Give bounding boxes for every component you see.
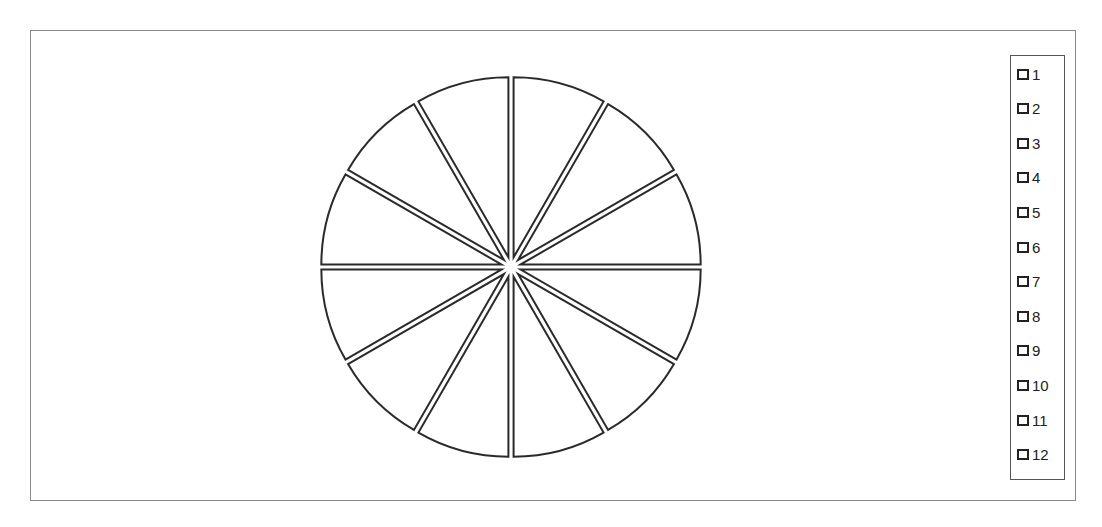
legend-swatch-icon bbox=[1017, 276, 1029, 287]
legend-swatch-icon bbox=[1017, 207, 1029, 218]
legend-swatch-icon bbox=[1017, 138, 1029, 149]
legend-label: 4 bbox=[1032, 169, 1040, 186]
legend-swatch-icon bbox=[1017, 172, 1029, 183]
legend-item: 12 bbox=[1017, 445, 1049, 465]
legend-swatch-icon bbox=[1017, 449, 1029, 460]
legend-swatch-icon bbox=[1017, 103, 1029, 114]
legend-label: 1 bbox=[1032, 66, 1040, 83]
legend-item: 6 bbox=[1017, 237, 1040, 257]
legend-item: 1 bbox=[1017, 64, 1040, 84]
legend: 123456789101112 bbox=[1010, 55, 1065, 480]
legend-label: 6 bbox=[1032, 239, 1040, 256]
legend-label: 3 bbox=[1032, 135, 1040, 152]
legend-item: 3 bbox=[1017, 133, 1040, 153]
legend-item: 9 bbox=[1017, 341, 1040, 361]
legend-swatch-icon bbox=[1017, 415, 1029, 426]
legend-label: 11 bbox=[1032, 412, 1048, 429]
legend-swatch-icon bbox=[1017, 345, 1029, 356]
legend-item: 2 bbox=[1017, 99, 1040, 119]
legend-item: 4 bbox=[1017, 168, 1040, 188]
legend-label: 12 bbox=[1032, 446, 1049, 463]
legend-label: 9 bbox=[1032, 342, 1040, 359]
legend-item: 5 bbox=[1017, 202, 1040, 222]
legend-item: 10 bbox=[1017, 375, 1049, 395]
legend-item: 11 bbox=[1017, 410, 1048, 430]
legend-label: 2 bbox=[1032, 100, 1040, 117]
legend-swatch-icon bbox=[1017, 311, 1029, 322]
legend-swatch-icon bbox=[1017, 242, 1029, 253]
legend-label: 5 bbox=[1032, 204, 1040, 221]
pie-chart bbox=[0, 0, 1102, 527]
legend-label: 7 bbox=[1032, 273, 1040, 290]
legend-swatch-icon bbox=[1017, 69, 1029, 80]
legend-label: 10 bbox=[1032, 377, 1049, 394]
legend-swatch-icon bbox=[1017, 380, 1029, 391]
legend-label: 8 bbox=[1032, 308, 1040, 325]
legend-item: 7 bbox=[1017, 272, 1040, 292]
legend-item: 8 bbox=[1017, 306, 1040, 326]
